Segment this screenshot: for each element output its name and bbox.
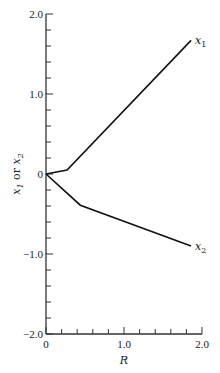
series-line-x2 [46,174,191,246]
y-tick-label: −1.0 [23,248,43,260]
labels: 2.01.00−1.0−2.001.02.0Rx1 or x2x1x2 [10,8,209,367]
y-tick-label: 2.0 [29,8,43,20]
x-tick-label: 2.0 [195,338,209,350]
axes [46,14,202,334]
series-lines [46,40,191,246]
series-label-x1: x1 [195,34,206,49]
y-tick-label: 1.0 [29,88,43,100]
x-axis-label: R [119,354,128,367]
y-tick-label: 0 [38,168,44,180]
y-tick-label: −2.0 [23,328,43,340]
x-tick-label: 0 [43,338,49,350]
line-chart: 2.01.00−1.0−2.001.02.0Rx1 or x2x1x2 [0,0,220,373]
series-label-x2: x2 [195,240,206,255]
series-line-x1 [46,40,191,174]
x-tick-label: 1.0 [117,338,131,350]
y-axis-label: x1 or x2 [10,153,25,195]
